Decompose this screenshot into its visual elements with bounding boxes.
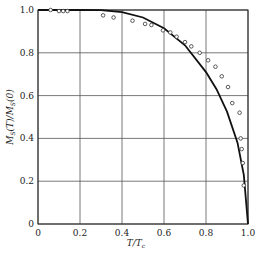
data-point-marker bbox=[242, 184, 246, 188]
data-point-marker bbox=[49, 8, 53, 12]
data-point-marker bbox=[150, 23, 154, 27]
grid-lines bbox=[38, 10, 248, 224]
data-point-marker bbox=[169, 31, 173, 35]
x-tick-label: 0.6 bbox=[157, 228, 172, 238]
data-point-marker bbox=[112, 16, 116, 20]
x-axis-label: T/Tc bbox=[127, 238, 146, 249]
y-axis-label: MS(T)/MS(0) bbox=[5, 89, 16, 146]
data-markers bbox=[49, 8, 246, 187]
x-tick-label: 0 bbox=[35, 228, 41, 238]
data-point-marker bbox=[239, 137, 243, 141]
x-tick-label: 0.2 bbox=[73, 228, 87, 238]
data-point-marker bbox=[131, 19, 135, 23]
x-tick-label: 0.4 bbox=[115, 228, 130, 238]
y-axis-ticks: 00.20.40.60.81.0 bbox=[20, 5, 35, 229]
data-point-marker bbox=[190, 45, 194, 49]
data-point-marker bbox=[101, 14, 105, 18]
y-tick-label: 0.8 bbox=[20, 48, 35, 58]
chart: 00.20.40.60.81.0 00.20.40.60.81.0 T/Tc M… bbox=[0, 0, 264, 254]
data-point-marker bbox=[220, 75, 224, 79]
data-point-marker bbox=[57, 9, 61, 13]
data-point-marker bbox=[241, 161, 245, 165]
data-point-marker bbox=[226, 85, 230, 89]
y-tick-label: 1.0 bbox=[20, 5, 35, 15]
data-point-marker bbox=[175, 35, 179, 39]
data-point-marker bbox=[238, 111, 242, 115]
data-point-marker bbox=[214, 65, 218, 69]
x-tick-label: 1.0 bbox=[241, 228, 256, 238]
data-point-marker bbox=[61, 9, 65, 13]
data-point-marker bbox=[230, 101, 234, 105]
y-tick-label: 0 bbox=[28, 219, 34, 229]
x-axis-ticks: 00.20.40.60.81.0 bbox=[35, 228, 255, 238]
data-point-marker bbox=[198, 51, 202, 55]
theory-curve bbox=[38, 10, 248, 224]
x-tick-label: 0.8 bbox=[199, 228, 214, 238]
data-point-marker bbox=[161, 29, 165, 33]
plot-frame bbox=[38, 10, 248, 224]
y-tick-label: 0.6 bbox=[20, 91, 35, 101]
data-point-marker bbox=[240, 147, 244, 151]
data-point-marker bbox=[66, 9, 70, 13]
data-point-marker bbox=[183, 40, 187, 44]
y-tick-label: 0.4 bbox=[20, 133, 35, 143]
y-tick-label: 0.2 bbox=[20, 176, 34, 186]
data-point-marker bbox=[206, 58, 210, 62]
data-point-marker bbox=[143, 22, 147, 26]
